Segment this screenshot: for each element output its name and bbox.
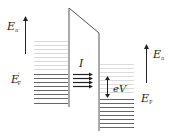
left-fermi-label: E'F [10, 71, 21, 86]
tunneling-current-arrows [73, 73, 93, 89]
right-filled-levels [100, 100, 134, 128]
right-energy-label: En [152, 48, 165, 61]
left-empty-levels [34, 42, 68, 70]
band-diagram: En' E'F I eV En EF [0, 0, 173, 138]
bias-label: eV [113, 83, 128, 94]
left-energy-axis-arrow [23, 16, 28, 54]
left-energy-label: En' [6, 20, 20, 33]
bias-double-arrow [105, 76, 110, 98]
right-energy-axis-arrow [144, 44, 149, 83]
left-filled-levels [34, 75, 68, 104]
tunnel-barrier [69, 8, 99, 131]
current-label: I [78, 57, 84, 70]
right-fermi-label: EF [140, 92, 153, 105]
